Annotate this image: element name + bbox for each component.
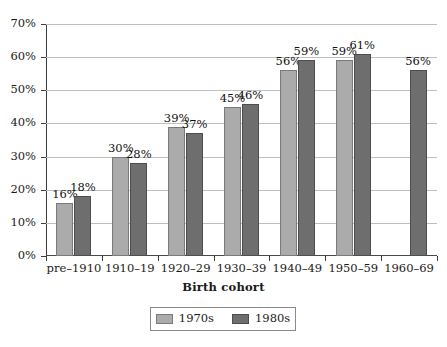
bar [112, 157, 129, 256]
bar-value-label: 37% [179, 119, 211, 131]
x-axis-tick [214, 256, 215, 261]
bar [168, 127, 185, 256]
x-axis-tick [158, 256, 159, 261]
bar [280, 70, 297, 256]
legend-label-1980s: 1980s [255, 313, 290, 325]
gridline-60 [46, 57, 437, 58]
y-axis-tick [41, 57, 46, 58]
x-axis-tick [437, 256, 438, 261]
bar-value-label: 56% [402, 56, 434, 68]
bar-value-label: 28% [123, 149, 155, 161]
x-axis-tick [102, 256, 103, 261]
x-axis-title: Birth cohort [0, 280, 447, 294]
legend-swatch-1970s-icon [156, 314, 173, 324]
legend-swatch-1980s-icon [232, 314, 249, 324]
y-axis-tick-label: 70% [0, 18, 36, 30]
x-axis-category-label: 1960–69 [381, 262, 437, 274]
gridline-70 [46, 24, 437, 25]
bar [410, 70, 427, 256]
x-axis-category-label: 1940–49 [269, 262, 325, 274]
bar [74, 196, 91, 256]
bar [336, 60, 353, 256]
x-axis-category-label: pre–1910 [46, 262, 102, 274]
bar [186, 133, 203, 256]
bar-value-label: 18% [67, 182, 99, 194]
y-axis-tick [41, 123, 46, 124]
bar [130, 163, 147, 256]
bar [56, 203, 73, 256]
bar [354, 54, 371, 256]
x-axis-tick [381, 256, 382, 261]
y-axis-tick-label: 60% [0, 51, 36, 63]
y-axis-tick [41, 24, 46, 25]
x-axis-tick [269, 256, 270, 261]
bar-value-label: 46% [235, 90, 267, 102]
y-axis-tick-label: 20% [0, 184, 36, 196]
y-axis-tick [41, 223, 46, 224]
y-axis-tick-label: 0% [0, 250, 36, 262]
bar [224, 107, 241, 256]
bar [298, 60, 315, 256]
y-axis-tick-label: 50% [0, 84, 36, 96]
legend-label-1970s: 1970s [179, 313, 214, 325]
y-axis-tick [41, 256, 46, 257]
x-axis-category-label: 1950–59 [325, 262, 381, 274]
x-axis-category-label: 1910–19 [102, 262, 158, 274]
bar-value-label: 61% [346, 40, 378, 52]
x-axis-category-label: 1920–29 [158, 262, 214, 274]
y-axis-labels: 0%10%20%30%40%50%60%70% [0, 0, 40, 347]
plot-area: 16%18%30%28%39%37%45%46%56%59%59%61%56% [46, 24, 437, 256]
y-axis-tick [41, 90, 46, 91]
legend-item-1970s: 1970s [156, 313, 214, 325]
bar-value-label: 59% [290, 46, 322, 58]
y-axis-tick-label: 10% [0, 217, 36, 229]
y-axis-tick [41, 190, 46, 191]
bar [242, 104, 259, 256]
legend-item-1980s: 1980s [232, 313, 290, 325]
chart-legend: 1970s 1980s [150, 307, 296, 331]
y-axis-tick [41, 157, 46, 158]
x-axis-category-label: 1930–39 [214, 262, 270, 274]
y-axis-tick-label: 30% [0, 151, 36, 163]
bar-chart: 0%10%20%30%40%50%60%70% 16%18%30%28%39%3… [0, 0, 447, 347]
y-axis-tick-label: 40% [0, 117, 36, 129]
x-axis-tick [325, 256, 326, 261]
